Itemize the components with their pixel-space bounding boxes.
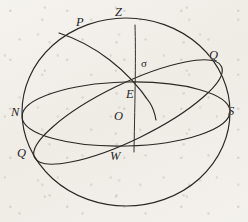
meridian-arc-through-pole	[59, 33, 156, 120]
celestial-sphere-figure: P Z Q σ E O N S Q W	[0, 0, 248, 222]
vertical-circle-line	[134, 25, 135, 152]
label-equator-left-q: Q	[17, 147, 26, 160]
label-pole-p: P	[76, 16, 84, 29]
label-east-e: E	[126, 88, 134, 101]
label-center-o: O	[114, 110, 123, 123]
label-sigma: σ	[141, 58, 147, 69]
label-north-n: N	[11, 106, 19, 119]
label-west-w: W	[110, 150, 120, 163]
equator-ellipse	[22, 41, 233, 183]
label-zenith-z: Z	[115, 6, 122, 19]
label-equator-right-q: Q	[209, 49, 218, 62]
sphere-outline-circle	[22, 18, 230, 206]
label-south-s: S	[228, 105, 234, 118]
sphere-drawing	[0, 0, 248, 222]
